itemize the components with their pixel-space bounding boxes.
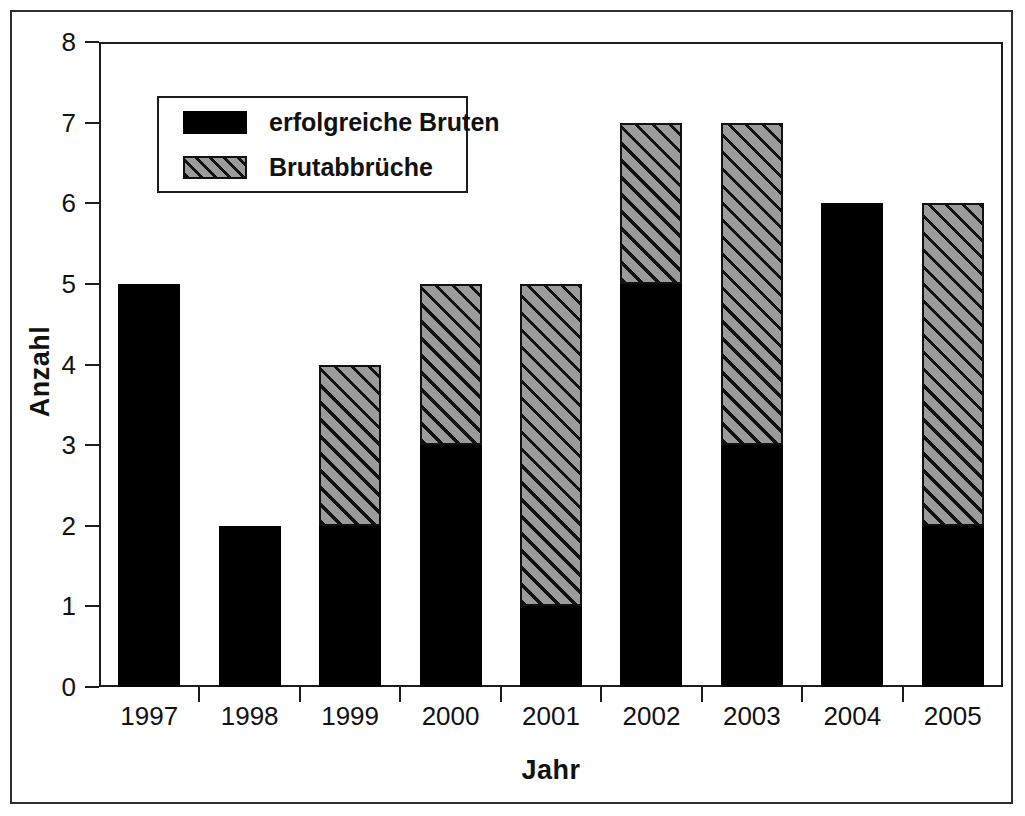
bar-segment-erfolgreiche-bruten <box>219 526 281 687</box>
chart-legend: erfolgreiche Bruten Brutabbrüche <box>157 96 468 193</box>
legend-entry-erfolgreiche-bruten: erfolgreiche Bruten <box>183 110 500 134</box>
x-axis-tick <box>600 687 602 702</box>
bar-chart: 012345678 199719981999200020012002200320… <box>0 0 1025 816</box>
y-axis-tick <box>85 283 99 285</box>
legend-label: erfolgreiche Bruten <box>269 110 500 135</box>
x-axis-title: Jahr <box>99 755 1003 786</box>
bar-segment-erfolgreiche-bruten <box>319 526 381 687</box>
x-axis-tick-label: 2001 <box>496 702 606 731</box>
y-axis-tick <box>85 122 99 124</box>
x-axis-tick-label: 1999 <box>295 702 405 731</box>
y-axis-tick-label: 0 <box>36 674 76 700</box>
legend-swatch-solid-icon <box>183 111 247 134</box>
bar-segment-brutabbrueche <box>420 284 482 445</box>
bar-segment-brutabbrueche <box>319 365 381 526</box>
x-axis-tick <box>500 687 502 702</box>
y-axis-tick-label: 1 <box>36 593 76 619</box>
y-axis-tick <box>85 444 99 446</box>
y-axis-tick <box>85 41 99 43</box>
bar-segment-brutabbrueche <box>922 203 984 526</box>
bar-group <box>620 42 682 687</box>
y-axis-tick-label: 8 <box>36 29 76 55</box>
x-axis-tick-label: 2005 <box>898 702 1008 731</box>
x-axis-tick-label: 1997 <box>94 702 204 731</box>
y-axis-tick <box>85 202 99 204</box>
bar-segment-erfolgreiche-bruten <box>118 284 180 687</box>
legend-swatch-hatch-icon <box>183 156 247 179</box>
y-axis-tick-label: 7 <box>36 110 76 136</box>
legend-label: Brutabbrüche <box>269 155 433 180</box>
y-axis-tick <box>85 525 99 527</box>
x-axis-tick <box>299 687 301 702</box>
bar-group <box>721 42 783 687</box>
y-axis-title: Anzahl <box>25 292 56 452</box>
x-axis-tick-label: 1998 <box>195 702 305 731</box>
x-axis-tick <box>399 687 401 702</box>
bar-group <box>520 42 582 687</box>
bar-segment-erfolgreiche-bruten <box>520 606 582 687</box>
bar-segment-brutabbrueche <box>620 123 682 284</box>
y-axis-tick <box>85 364 99 366</box>
x-axis-tick <box>801 687 803 702</box>
x-axis-tick <box>902 687 904 702</box>
bar-segment-erfolgreiche-bruten <box>420 445 482 687</box>
bar-segment-erfolgreiche-bruten <box>922 526 984 687</box>
bar-segment-erfolgreiche-bruten <box>620 284 682 687</box>
x-axis-tick <box>198 687 200 702</box>
bar-segment-brutabbrueche <box>520 284 582 607</box>
x-axis-tick-label: 2000 <box>396 702 506 731</box>
x-axis-tick-label: 2002 <box>596 702 706 731</box>
y-axis-tick <box>85 605 99 607</box>
bar-group <box>821 42 883 687</box>
bar-segment-brutabbrueche <box>721 123 783 446</box>
legend-entry-brutabbrueche: Brutabbrüche <box>183 155 433 179</box>
y-axis-tick-label: 2 <box>36 513 76 539</box>
y-axis-tick-label: 6 <box>36 190 76 216</box>
bar-segment-erfolgreiche-bruten <box>821 203 883 687</box>
y-axis-tick <box>85 686 99 688</box>
bar-segment-erfolgreiche-bruten <box>721 445 783 687</box>
bar-group <box>922 42 984 687</box>
x-axis-tick <box>701 687 703 702</box>
x-axis-tick-label: 2004 <box>797 702 907 731</box>
x-axis-tick-label: 2003 <box>697 702 807 731</box>
